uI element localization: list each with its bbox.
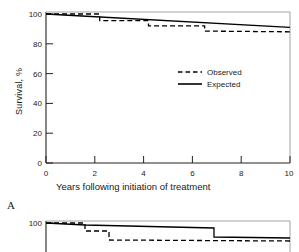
y-ticklabel-100: 100 [29, 10, 43, 19]
panel-a-axes [46, 12, 290, 163]
y-ticklabel-40: 40 [33, 99, 42, 108]
panel-a-y-axis-title: Survival, % [14, 68, 24, 115]
x-ticklabel-6: 6 [190, 169, 195, 178]
panel-a-y-ticklabels: 100 80 60 40 20 0 [29, 10, 43, 168]
x-ticklabel-0: 0 [44, 169, 49, 178]
series-expected-line [46, 14, 290, 27]
panel-a-letter: A [7, 199, 15, 211]
legend-label-observed: Observed [207, 68, 242, 77]
panel-b-series-observed-line [46, 223, 290, 241]
panel-b-plot: 100 [0, 214, 299, 252]
panel-b-axes [46, 221, 290, 252]
panel-b-y-ticklabel-100: 100 [29, 219, 43, 228]
panel-a: 100 80 60 40 20 0 0 2 4 6 [0, 0, 299, 190]
panel-a-x-ticklabels: 0 2 4 6 8 10 [44, 169, 294, 178]
x-ticklabel-2: 2 [93, 169, 98, 178]
x-ticklabel-4: 4 [141, 169, 146, 178]
y-ticklabel-60: 60 [33, 70, 42, 79]
panel-a-y-ticks [46, 14, 53, 163]
y-ticklabel-20: 20 [33, 129, 42, 138]
y-ticklabel-0: 0 [38, 159, 43, 168]
panel-a-legend: Observed Expected [178, 68, 242, 89]
panel-a-plot: 100 80 60 40 20 0 0 2 4 6 [0, 0, 299, 190]
panel-a-x-axis-title: Years following initiation of treatment [56, 181, 210, 192]
panel-b: 100 [0, 214, 299, 252]
panel-a-x-ticks [46, 156, 290, 163]
legend-label-expected: Expected [207, 80, 240, 89]
x-ticklabel-8: 8 [239, 169, 244, 178]
figure-survival-curves: 100 80 60 40 20 0 0 2 4 6 [0, 0, 299, 252]
panel-b-series-expected-line [46, 223, 290, 238]
x-ticklabel-10: 10 [285, 169, 294, 178]
y-ticklabel-80: 80 [33, 40, 42, 49]
